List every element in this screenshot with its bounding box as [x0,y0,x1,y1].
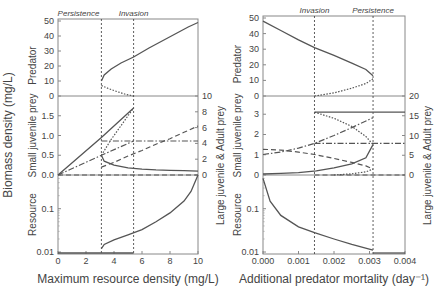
panel-label-predator: Predator [27,46,38,85]
y-tick-label-right: 20 [409,91,419,101]
bifurcation-figure: 0246810Maximum resource density (mg/L)Pe… [0,0,443,296]
y-tick-label: 0 [49,91,54,101]
y-tick-label: 0.01 [36,247,54,257]
y-tick-label: 10 [249,75,259,85]
series-predator-unstable [315,79,374,96]
series-predator-stable [263,21,373,76]
y-tick-label: 30 [44,46,54,56]
y-tick-label: 0 [254,170,259,180]
x-tick-label: 0 [55,256,60,266]
y-tick-label: 2 [254,129,259,139]
panel-label-resource: Resource [27,193,38,236]
y-tick-label: 1 [254,150,259,160]
y-tick-label: 10 [44,76,54,86]
panel-label-predator: Predator [232,44,243,83]
series-predator-unstable [101,86,133,97]
series-prey-small-juv-stable [101,155,198,171]
y-tick-label: 30 [249,44,259,54]
y-tick-label-right: 10 [409,131,419,141]
y-tick-label: 20 [249,60,259,70]
annotation-persistence: Persistence [352,6,394,15]
x-tick-label: 8 [167,256,172,266]
panel-label-large-juvenile-adult: Large juvenile & Adult prey [422,106,433,225]
annotation-invasion: Invasion [119,9,149,18]
y-tick-label: 1.5 [41,111,54,121]
x-axis-label: Additional predator mortality (day⁻¹) [239,272,429,286]
series-prey-large-juv-stable [263,118,373,155]
annotation-invasion: Invasion [300,6,330,15]
panel-label-resource: Resource [232,193,243,236]
series-prey-small-juv-unstable [101,108,133,155]
y-axis-label-shared: Biomass density (mg/L) [1,72,15,197]
series-prey-small-juv-stable [263,145,373,174]
y-tick-label: 0.1 [246,204,259,214]
y-tick-label-right: 15 [409,111,419,121]
y-tick-label-right: 0 [202,170,207,180]
y-tick-label: 50 [44,16,54,26]
x-tick-label: 6 [139,256,144,266]
y-tick-label: 0.1 [41,204,54,214]
y-tick-label: 1.0 [41,131,54,141]
x-axis-label: Maximum resource density (mg/L) [37,272,218,286]
x-tick-label: 0.002 [323,256,346,266]
x-tick-label: 0.003 [358,256,381,266]
panel-label-small-juvenile: Small juvenile prey [232,94,243,178]
y-tick-label: 0 [254,91,259,101]
plot-frame-left [58,19,198,254]
y-tick-label-right: 10 [202,91,212,101]
y-tick-label: 40 [44,31,54,41]
y-tick-label: 0.5 [41,150,54,160]
panel-label-large-juvenile-adult: Large juvenile & Adult prey [215,106,226,225]
y-tick-label: 0.0 [41,170,54,180]
x-tick-label: 0.004 [394,256,417,266]
y-tick-label: 0.01 [241,247,259,257]
y-tick-label: 50 [249,13,259,23]
x-tick-label: 0.000 [252,256,275,266]
series-prey-large-juv-no-predator [58,141,134,175]
series-resource-stable [263,178,373,250]
y-tick-label: 20 [44,61,54,71]
y-tick-label-right: 5 [409,150,414,160]
x-tick-label: 10 [193,256,203,266]
y-tick-label: 40 [249,29,259,39]
y-tick-label-right: 0 [409,170,414,180]
annotation-persistence: Persistence [58,9,100,18]
x-tick-label: 4 [111,256,116,266]
y-tick-label-right: 4 [202,138,207,148]
y-tick-label-right: 8 [202,107,207,117]
series-predator-stable [101,23,198,82]
panel-label-small-juvenile: Small juvenile prey [27,94,38,178]
x-tick-label: 2 [83,256,88,266]
y-tick-label-right: 2 [202,154,207,164]
series-resource-stable [101,175,198,249]
x-tick-label: 0.001 [287,256,310,266]
y-tick-label-right: 6 [202,123,207,133]
series-prey-unstable-lower [334,169,373,175]
y-tick-label: 3 [254,109,259,119]
